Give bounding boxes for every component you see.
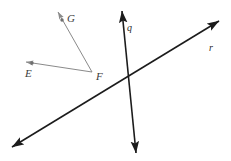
point-label-F: F — [96, 71, 103, 82]
point-label-E: E — [25, 68, 32, 79]
geometry-figure: E G F q r — [0, 0, 231, 161]
line-r — [12, 21, 219, 147]
line-label-q: q — [127, 23, 132, 33]
point-marker-G — [60, 18, 63, 21]
ray-FE — [26, 62, 92, 72]
line-label-r: r — [209, 43, 213, 53]
point-label-G: G — [67, 13, 75, 24]
figure-canvas — [0, 0, 231, 161]
point-marker-E — [30, 61, 33, 64]
